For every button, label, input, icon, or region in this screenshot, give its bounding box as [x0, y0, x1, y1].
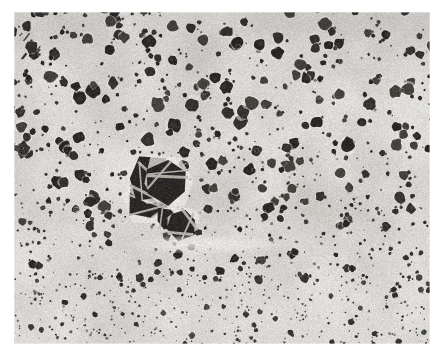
micrograph-plate [14, 12, 430, 344]
micrograph-image [14, 12, 430, 344]
figure-root: Grayscale electron micrograph of a two-p… [0, 0, 444, 355]
